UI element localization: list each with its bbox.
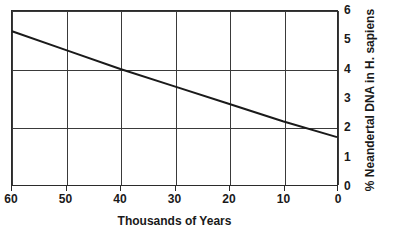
data-series-line <box>12 11 337 185</box>
x-tick-label: 50 <box>46 192 86 206</box>
x-tick-label: 30 <box>155 192 195 206</box>
x-tick-label: 60 <box>0 192 31 206</box>
y-tick-label: 5 <box>344 33 360 45</box>
x-tick-label: 20 <box>209 192 249 206</box>
x-tick-mark <box>66 186 67 191</box>
plot-area <box>11 10 338 186</box>
y-axis-title: % Neandertal DNA in H. sapiens <box>363 9 377 191</box>
y-tick-label: 0 <box>344 180 360 192</box>
x-tick-mark <box>337 186 338 191</box>
x-tick-mark <box>175 186 176 191</box>
y-tick-label: 4 <box>344 63 360 75</box>
y-tick-label: 2 <box>344 121 360 133</box>
y-tick-label: 1 <box>344 151 360 163</box>
x-tick-label: 10 <box>264 192 304 206</box>
x-tick-label: 0 <box>318 192 358 206</box>
x-tick-label: 40 <box>100 192 140 206</box>
y-tick-label: 6 <box>344 4 360 16</box>
chart-container: 6050403020100 0123456 Thousands of Years… <box>0 0 395 240</box>
x-tick-mark <box>284 186 285 191</box>
x-tick-mark <box>229 186 230 191</box>
x-axis-title: Thousands of Years <box>11 214 338 228</box>
x-tick-mark <box>120 186 121 191</box>
y-axis-title-wrapper: % Neandertal DNA in H. sapiens <box>360 0 380 200</box>
x-tick-mark <box>11 186 12 191</box>
y-tick-label: 3 <box>344 92 360 104</box>
gridline-vertical <box>338 11 339 185</box>
